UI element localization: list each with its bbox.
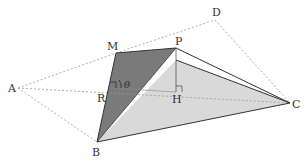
edge-M-D bbox=[116, 20, 215, 53]
label-P: P bbox=[175, 35, 183, 48]
label-M: M bbox=[107, 40, 118, 53]
label-B: B bbox=[92, 146, 100, 159]
edge-A-B bbox=[18, 88, 97, 142]
label-H: H bbox=[172, 93, 182, 106]
label-D: D bbox=[212, 6, 221, 19]
label-C: C bbox=[292, 98, 300, 111]
label-R: R bbox=[97, 92, 106, 105]
label-A: A bbox=[7, 82, 17, 95]
geometry-diagram: A B C D M P R H θ bbox=[0, 0, 304, 160]
edge-A-M bbox=[18, 53, 116, 88]
label-theta: θ bbox=[124, 79, 130, 90]
